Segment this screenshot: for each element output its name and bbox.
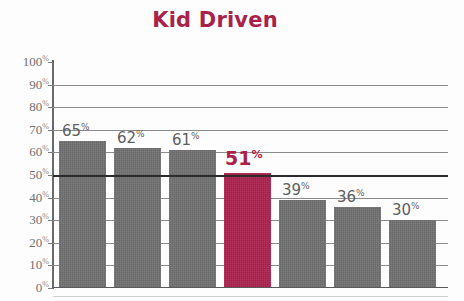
gridline-90 <box>53 85 448 86</box>
bar[interactable] <box>334 207 381 288</box>
data-label: 62% <box>117 130 177 146</box>
y-axis-label-0: 0% <box>1 281 49 294</box>
y-axis-tick-60 <box>48 152 53 153</box>
data-label-value: 30 <box>392 201 411 219</box>
y-axis-tick-30 <box>48 220 53 221</box>
bar[interactable] <box>59 141 106 288</box>
percent-sign: % <box>251 148 262 161</box>
y-axis-tick-100 <box>48 62 53 63</box>
y-axis-tick-0 <box>48 288 53 289</box>
percent-sign: % <box>411 201 420 211</box>
percent-sign: % <box>81 122 90 132</box>
y-axis-label-60: 60% <box>1 145 49 158</box>
y-axis-tick-70 <box>48 130 53 131</box>
data-label: 30% <box>392 202 452 218</box>
data-label: 65% <box>62 123 122 139</box>
data-label-highlighted: 51% <box>225 149 285 168</box>
data-label-value: 61 <box>172 131 191 149</box>
data-label-value: 62 <box>117 129 136 147</box>
y-axis-label-value: 60 <box>29 145 42 160</box>
y-axis-label-80: 80% <box>1 100 49 113</box>
y-axis-label-value: 30 <box>29 213 42 228</box>
y-axis-labels: 100%90%80%70%60%50%40%30%20%10%0% <box>0 62 49 288</box>
bar[interactable] <box>169 150 216 288</box>
data-label-value: 65 <box>62 122 81 140</box>
axis-baseline <box>53 287 448 288</box>
y-axis-label-value: 40 <box>29 190 42 205</box>
data-label-value: 39 <box>282 181 301 199</box>
y-axis-label-40: 40% <box>1 191 49 204</box>
percent-sign: % <box>136 129 145 139</box>
data-label-value: 51 <box>225 147 251 169</box>
y-axis-tick-40 <box>48 198 53 199</box>
bar[interactable] <box>389 220 436 288</box>
y-axis-tick-80 <box>48 107 53 108</box>
gridline-80 <box>53 107 448 108</box>
figure-bottom-edge <box>53 296 448 297</box>
y-axis-label-value: 50 <box>29 167 42 182</box>
chart-title: Kid Driven <box>0 8 430 32</box>
y-axis-label-value: 100 <box>23 54 43 69</box>
data-label: 61% <box>172 132 232 148</box>
data-label: 36% <box>337 189 397 205</box>
y-axis-label-value: 20 <box>29 235 42 250</box>
y-axis-label-100: 100% <box>1 55 49 68</box>
y-axis-label-90: 90% <box>1 78 49 91</box>
y-axis-label-50: 50% <box>1 168 49 181</box>
data-label-value: 36 <box>337 188 356 206</box>
y-axis-label-30: 30% <box>1 213 49 226</box>
y-axis-label-value: 80 <box>29 100 42 115</box>
percent-sign: % <box>356 188 365 198</box>
bar[interactable] <box>114 148 161 288</box>
bar-highlighted[interactable] <box>224 173 271 288</box>
y-axis-tick-10 <box>48 265 53 266</box>
plot-area: 65%62%61%51%39%36%30% <box>53 62 448 288</box>
y-axis-label-20: 20% <box>1 236 49 249</box>
y-axis-label-value: 70 <box>29 122 42 137</box>
chart-container: Kid Driven 100%90%80%70%60%50%40%30%20%1… <box>0 0 464 301</box>
gridline-emphasis-50 <box>53 175 448 177</box>
y-axis-label-10: 10% <box>1 258 49 271</box>
y-axis-tick-20 <box>48 243 53 244</box>
data-label: 39% <box>282 182 342 198</box>
y-axis-label-value: 10 <box>29 258 42 273</box>
y-axis-label-70: 70% <box>1 123 49 136</box>
percent-sign: % <box>191 131 200 141</box>
y-axis-label-value: 90 <box>29 77 42 92</box>
bar[interactable] <box>279 200 326 288</box>
y-axis-tick-90 <box>48 85 53 86</box>
percent-sign: % <box>301 181 310 191</box>
